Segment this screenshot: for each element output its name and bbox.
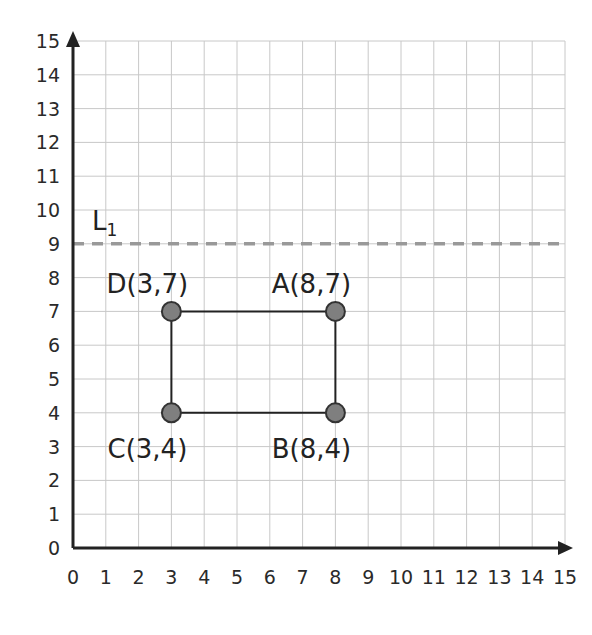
x-tick-label: 11 bbox=[422, 566, 446, 588]
x-tick-label: 0 bbox=[67, 566, 79, 588]
x-tick-label: 6 bbox=[264, 566, 276, 588]
line-l1: L1 bbox=[73, 206, 565, 244]
x-tick-label: 14 bbox=[520, 566, 544, 588]
point-label-c: C(3,4) bbox=[108, 434, 188, 464]
x-tick-label: 4 bbox=[198, 566, 210, 588]
line-l1-label: L1 bbox=[92, 206, 117, 240]
y-tick-label: 11 bbox=[36, 165, 60, 187]
y-tick-label: 15 bbox=[36, 30, 60, 52]
x-tick-label: 9 bbox=[362, 566, 374, 588]
x-tick-label: 12 bbox=[455, 566, 479, 588]
point-label-d: D(3,7) bbox=[107, 269, 189, 299]
point-label-b: B(8,4) bbox=[272, 434, 351, 464]
y-tick-label: 2 bbox=[48, 469, 60, 491]
y-tick-label: 12 bbox=[36, 131, 60, 153]
rectangle-abcd bbox=[171, 311, 335, 412]
y-tick-label: 9 bbox=[48, 233, 60, 255]
y-tick-label: 3 bbox=[48, 436, 60, 458]
y-tick-label: 7 bbox=[48, 300, 60, 322]
x-tick-label: 7 bbox=[297, 566, 309, 588]
point-b bbox=[326, 403, 345, 422]
coordinate-plane: L1 0123456789101112131415012345678910111… bbox=[0, 0, 592, 635]
x-tick-label: 10 bbox=[389, 566, 413, 588]
rectangle-outline bbox=[171, 311, 335, 412]
y-tick-label: 6 bbox=[48, 334, 60, 356]
y-tick-label: 5 bbox=[48, 368, 60, 390]
y-tick-label: 13 bbox=[36, 98, 60, 120]
point-labels: A(8,7)B(8,4)C(3,4)D(3,7) bbox=[107, 269, 352, 463]
x-tick-label: 2 bbox=[133, 566, 145, 588]
point-d bbox=[162, 302, 181, 321]
x-tick-label: 3 bbox=[165, 566, 177, 588]
x-tick-label: 13 bbox=[487, 566, 511, 588]
y-axis-arrow-icon bbox=[66, 31, 80, 47]
x-tick-label: 5 bbox=[231, 566, 243, 588]
y-tick-label: 4 bbox=[48, 402, 60, 424]
tick-labels: 0123456789101112131415012345678910111213… bbox=[36, 30, 577, 588]
point-a bbox=[326, 302, 345, 321]
y-tick-label: 1 bbox=[48, 503, 60, 525]
y-tick-label: 8 bbox=[48, 267, 60, 289]
points bbox=[162, 302, 345, 422]
x-tick-label: 8 bbox=[329, 566, 341, 588]
x-tick-label: 15 bbox=[553, 566, 577, 588]
y-tick-label: 10 bbox=[36, 199, 60, 221]
point-c bbox=[162, 403, 181, 422]
x-tick-label: 1 bbox=[100, 566, 112, 588]
y-tick-label: 0 bbox=[48, 537, 60, 559]
point-label-a: A(8,7) bbox=[272, 269, 351, 299]
y-tick-label: 14 bbox=[36, 64, 60, 86]
